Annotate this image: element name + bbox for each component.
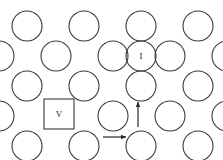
atom-circle xyxy=(126,71,156,101)
migration-arrow-group xyxy=(103,102,138,137)
atom-circle xyxy=(155,101,185,131)
atom-circle xyxy=(155,41,185,71)
vacancy-defect: V xyxy=(44,99,74,129)
atom-circle xyxy=(183,11,213,41)
interstitial-label: I xyxy=(140,51,143,61)
atom-circle xyxy=(183,71,213,101)
atom-circle xyxy=(183,131,213,160)
atom-circle xyxy=(212,41,223,71)
atom-circle xyxy=(126,131,156,160)
atom-circle xyxy=(0,101,14,131)
atom-circle xyxy=(212,101,223,131)
atom-circle xyxy=(69,11,99,41)
atom-circle xyxy=(98,101,128,131)
atom-circle xyxy=(0,41,14,71)
vacancy-label: V xyxy=(56,109,63,119)
atom-circle xyxy=(98,41,128,71)
atom-group: I xyxy=(0,11,223,160)
atom-circle xyxy=(12,71,42,101)
atom-circle xyxy=(69,71,99,101)
atom-circle xyxy=(12,131,42,160)
crystal-lattice-defect-diagram: I V xyxy=(0,0,223,160)
atom-circle xyxy=(12,11,42,41)
atom-circle xyxy=(69,131,99,160)
lattice-canvas: I V xyxy=(0,0,223,160)
atom-circle xyxy=(41,41,71,71)
atom-circle xyxy=(126,11,156,41)
